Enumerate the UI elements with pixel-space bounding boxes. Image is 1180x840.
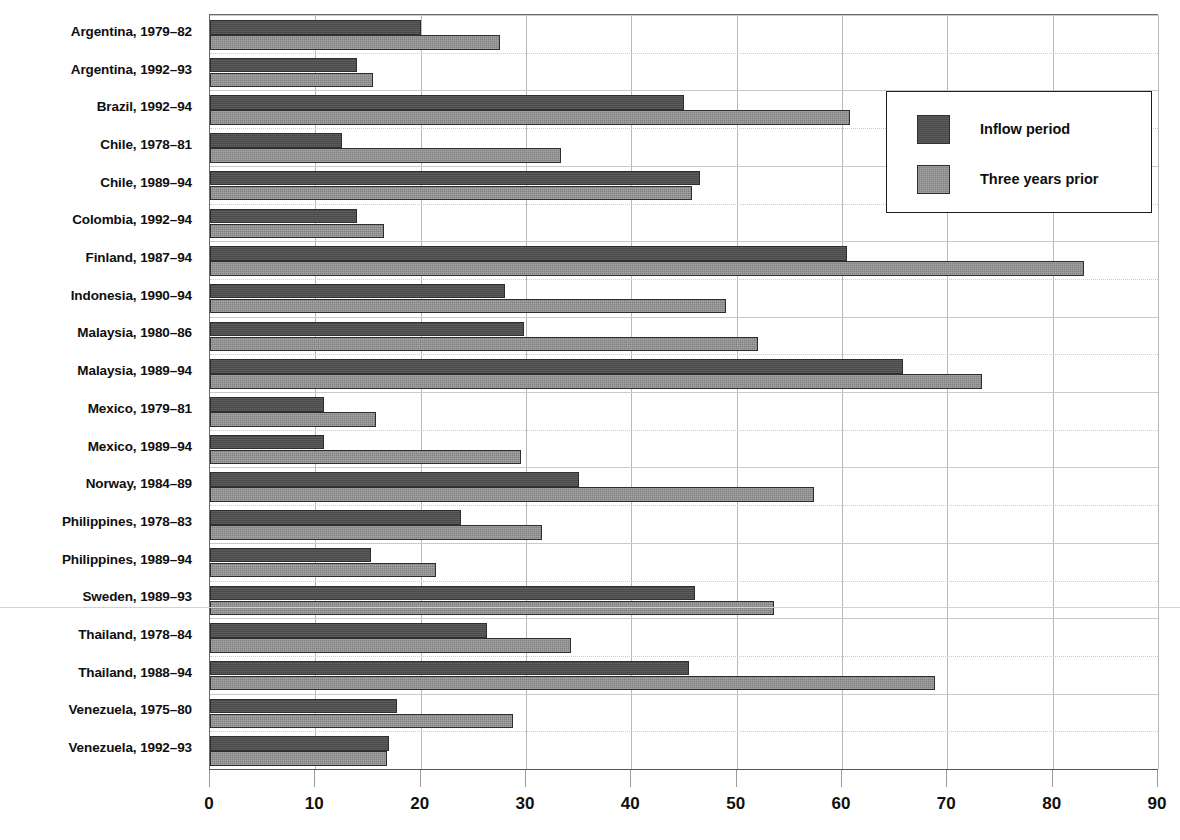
x-tick-mark [209,770,210,787]
x-tick-label: 0 [204,794,213,814]
category-label: Venezuela, 1992–93 [0,740,192,755]
bar-group [210,694,1158,732]
bar-chart: Argentina, 1979–82Argentina, 1992–93Braz… [0,0,1180,840]
category-label: Mexico, 1979–81 [0,401,192,416]
legend-entry: Three years prior [887,156,1151,202]
x-tick-label: 10 [305,794,324,814]
category-label: Brazil, 1992–94 [0,99,192,114]
bar-three-years-prior [210,374,982,389]
x-tick-label: 90 [1148,794,1167,814]
page-separator-rule [0,607,1180,608]
bar-inflow-period [210,736,389,751]
category-label: Argentina, 1992–93 [0,62,192,77]
bar-inflow-period [210,133,342,148]
gridline-vertical [1158,15,1159,769]
category-label: Chile, 1989–94 [0,175,192,190]
bar-group [210,279,1158,317]
category-label: Venezuela, 1975–80 [0,702,192,717]
bar-inflow-period [210,586,695,601]
category-label: Thailand, 1978–84 [0,627,192,642]
category-label: Thailand, 1988–94 [0,665,192,680]
x-tick-mark [314,770,315,787]
bar-three-years-prior [210,450,521,465]
x-tick-label: 60 [832,794,851,814]
x-tick-label: 40 [621,794,640,814]
category-label: Colombia, 1992–94 [0,212,192,227]
bar-group [210,618,1158,656]
x-tick-mark [1157,770,1158,787]
bar-three-years-prior [210,261,1084,276]
x-axis: 0102030405060708090 [209,770,1157,830]
chart-legend: Inflow periodThree years prior [886,91,1152,213]
bar-three-years-prior [210,224,384,239]
bar-three-years-prior [210,412,376,427]
bar-three-years-prior [210,110,850,125]
bar-group [210,467,1158,505]
x-tick-mark [1052,770,1053,787]
x-tick-label: 30 [516,794,535,814]
category-label: Finland, 1987–94 [0,250,192,265]
x-tick-mark [420,770,421,787]
x-tick-label: 50 [726,794,745,814]
category-label: Philippines, 1978–83 [0,514,192,529]
x-tick-mark [630,770,631,787]
x-tick-mark [525,770,526,787]
bar-group [210,241,1158,279]
bar-group [210,731,1158,769]
bar-inflow-period [210,359,903,374]
bar-inflow-period [210,171,700,186]
x-tick-mark [841,770,842,787]
bar-three-years-prior [210,299,726,314]
bar-group [210,543,1158,581]
legend-label: Three years prior [980,171,1098,187]
bar-three-years-prior [210,714,513,729]
bar-inflow-period [210,472,579,487]
bar-three-years-prior [210,148,561,163]
category-label: Argentina, 1979–82 [0,24,192,39]
legend-swatch-inflow [917,115,950,144]
bar-group [210,656,1158,694]
bar-three-years-prior [210,186,692,201]
bar-group [210,317,1158,355]
legend-label: Inflow period [980,121,1070,137]
bar-three-years-prior [210,337,758,352]
category-label: Malaysia, 1989–94 [0,363,192,378]
bar-inflow-period [210,95,684,110]
bar-inflow-period [210,623,487,638]
bar-group [210,581,1158,619]
x-tick-label: 20 [410,794,429,814]
bar-group [210,354,1158,392]
bar-inflow-period [210,284,505,299]
bar-group [210,53,1158,91]
bar-three-years-prior [210,751,387,766]
bar-inflow-period [210,397,324,412]
x-tick-label: 70 [937,794,956,814]
category-label: Mexico, 1989–94 [0,439,192,454]
bar-inflow-period [210,209,357,224]
bar-inflow-period [210,510,461,525]
bar-inflow-period [210,20,421,35]
bar-three-years-prior [210,676,935,691]
bar-three-years-prior [210,525,542,540]
bar-group [210,392,1158,430]
bar-three-years-prior [210,35,500,50]
x-tick-label: 80 [1042,794,1061,814]
bar-group [210,15,1158,53]
bar-three-years-prior [210,487,814,502]
bar-inflow-period [210,322,524,337]
bar-three-years-prior [210,638,571,653]
bar-inflow-period [210,699,397,714]
x-tick-mark [946,770,947,787]
category-label: Sweden, 1989–93 [0,589,192,604]
category-axis-labels: Argentina, 1979–82Argentina, 1992–93Braz… [0,14,200,768]
category-label: Chile, 1978–81 [0,137,192,152]
category-label: Philippines, 1989–94 [0,552,192,567]
legend-swatch-prior [917,165,950,194]
bar-three-years-prior [210,563,436,578]
bar-inflow-period [210,435,324,450]
bar-group [210,505,1158,543]
bar-group [210,430,1158,468]
bar-inflow-period [210,246,847,261]
category-label: Norway, 1984–89 [0,476,192,491]
bar-inflow-period [210,661,689,676]
